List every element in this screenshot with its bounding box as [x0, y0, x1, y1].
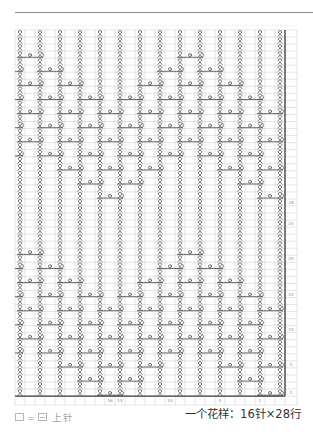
twisted-knit-stitch-icon [18, 228, 22, 234]
twisted-knit-stitch-icon [218, 242, 222, 248]
twisted-knit-stitch-icon [258, 347, 262, 353]
twisted-knit-end-icon [23, 123, 24, 127]
twisted-knit-stitch-icon [158, 59, 162, 65]
twisted-knit-stitch-icon [198, 305, 202, 311]
twisted-knit-stitch-icon [118, 312, 122, 318]
twisted-knit-stitch-icon [198, 164, 202, 170]
twisted-knit-end-icon [163, 335, 164, 339]
twisted-knit-stitch-icon [58, 192, 62, 198]
twisted-knit-end-icon [183, 67, 184, 71]
twisted-knit-stitch-icon [98, 101, 102, 107]
twisted-knit-end-icon [223, 152, 224, 156]
yarn-over-icon [269, 110, 272, 113]
twisted-knit-stitch-icon [278, 277, 282, 283]
yarn-over-icon [69, 363, 72, 366]
chart-row-12 [18, 312, 282, 318]
twisted-knit-stitch-icon [258, 291, 262, 297]
twisted-knit-stitch-icon [158, 256, 162, 262]
twisted-knit-end-icon [23, 95, 24, 99]
twisted-knit-stitch-icon [98, 228, 102, 234]
twisted-knit-stitch-icon [58, 277, 62, 283]
twisted-knit-stitch-icon [198, 291, 202, 297]
twisted-knit-stitch-icon [218, 361, 222, 367]
twisted-knit-stitch-icon [78, 157, 82, 163]
twisted-knit-stitch-icon [38, 101, 42, 107]
twisted-knit-stitch-icon [158, 354, 162, 360]
twisted-knit-stitch-icon [78, 192, 82, 198]
yarn-over-icon [109, 194, 112, 197]
yarn-over-icon [249, 321, 252, 324]
twisted-knit-stitch-icon [178, 129, 182, 135]
legend-equals: = [27, 412, 35, 423]
twisted-knit-stitch-icon [218, 52, 222, 58]
chart-row-25 [18, 221, 282, 227]
col-label: 16 [107, 398, 113, 403]
yarn-over-icon [269, 335, 272, 338]
twisted-knit-stitch-icon [238, 214, 242, 220]
twisted-knit-stitch-icon [38, 235, 42, 241]
twisted-knit-stitch-icon [118, 185, 122, 191]
twisted-knit-end-icon [103, 292, 104, 296]
twisted-knit-stitch-icon [278, 115, 282, 121]
twisted-knit-stitch-icon [258, 263, 262, 269]
twisted-knit-stitch-icon [38, 122, 42, 128]
yarn-over-icon [69, 138, 72, 141]
twisted-knit-end-icon [83, 335, 84, 339]
twisted-knit-stitch-icon [258, 115, 262, 121]
twisted-knit-stitch-icon [278, 108, 282, 114]
twisted-knit-stitch-icon [78, 122, 82, 128]
twisted-knit-stitch-icon [38, 45, 42, 51]
twisted-knit-stitch-icon [158, 333, 162, 339]
twisted-knit-stitch-icon [38, 200, 42, 206]
twisted-knit-stitch-icon [278, 305, 282, 311]
twisted-knit-stitch-icon [218, 305, 222, 311]
twisted-knit-end-icon [183, 95, 184, 99]
twisted-knit-stitch-icon [98, 200, 102, 206]
twisted-knit-stitch-icon [118, 256, 122, 262]
twisted-knit-stitch-icon [278, 270, 282, 276]
twisted-knit-stitch-icon [138, 129, 142, 135]
chart-row-4 [18, 368, 282, 374]
twisted-knit-stitch-icon [98, 284, 102, 290]
twisted-knit-stitch-icon [278, 52, 282, 58]
yarn-over-icon [189, 279, 192, 282]
twisted-knit-stitch-icon [198, 284, 202, 290]
twisted-knit-stitch-icon [18, 31, 22, 37]
twisted-knit-stitch-icon [38, 59, 42, 65]
twisted-knit-stitch-icon [218, 38, 222, 44]
twisted-knit-stitch-icon [38, 150, 42, 156]
twisted-knit-stitch-icon [58, 52, 62, 58]
twisted-knit-stitch-icon [138, 101, 142, 107]
twisted-knit-stitch-icon [218, 73, 222, 79]
chart-row-21 [17, 249, 282, 255]
twisted-knit-end-icon [143, 292, 144, 296]
twisted-knit-end-icon [143, 321, 144, 325]
twisted-knit-stitch-icon [178, 347, 182, 353]
twisted-knit-end-icon [83, 363, 84, 367]
twisted-knit-stitch-icon [158, 52, 162, 58]
twisted-knit-stitch-icon [258, 66, 262, 72]
twisted-knit-stitch-icon [258, 122, 262, 128]
twisted-knit-stitch-icon [158, 101, 162, 107]
twisted-knit-stitch-icon [118, 143, 122, 149]
twisted-knit-stitch-icon [178, 73, 182, 79]
twisted-knit-stitch-icon [278, 333, 282, 339]
twisted-knit-stitch-icon [138, 284, 142, 290]
twisted-knit-stitch-icon [98, 164, 102, 170]
chart-row-30 [18, 185, 282, 191]
twisted-knit-stitch-icon [58, 270, 62, 276]
row-label: 28 [288, 200, 294, 205]
twisted-knit-end-icon [143, 349, 144, 353]
yarn-over-icon [209, 152, 212, 155]
twisted-knit-stitch-icon [58, 221, 62, 227]
twisted-knit-stitch-icon [198, 129, 202, 135]
twisted-knit-stitch-icon [118, 122, 122, 128]
twisted-knit-stitch-icon [258, 129, 262, 135]
twisted-knit-stitch-icon [118, 361, 122, 367]
twisted-knit-stitch-icon [78, 214, 82, 220]
yarn-over-icon [129, 124, 132, 127]
twisted-knit-stitch-icon [238, 185, 242, 191]
twisted-knit-stitch-icon [178, 270, 182, 276]
twisted-knit-stitch-icon [98, 235, 102, 241]
twisted-knit-stitch-icon [178, 87, 182, 93]
